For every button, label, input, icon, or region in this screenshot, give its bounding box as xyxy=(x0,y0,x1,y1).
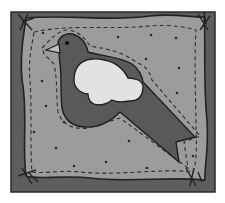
fabric-dot xyxy=(117,36,120,39)
fabric-dot xyxy=(128,140,131,143)
fabric-dot xyxy=(73,165,76,168)
fabric-dot xyxy=(175,37,178,40)
bird-quilt-illustration xyxy=(0,0,225,203)
bird-eye xyxy=(65,41,69,45)
fabric-dot xyxy=(33,131,36,134)
fabric-dot xyxy=(192,155,195,158)
fabric-dot xyxy=(146,167,149,170)
fabric-dot xyxy=(150,34,153,37)
fabric-dot xyxy=(105,161,108,164)
fabric-dot xyxy=(176,92,179,95)
fabric-dot xyxy=(145,58,148,61)
fabric-dot xyxy=(178,67,181,70)
fabric-dot xyxy=(55,147,58,150)
fabric-dot xyxy=(45,105,48,108)
fabric-dot xyxy=(42,32,45,35)
fabric-dot xyxy=(41,80,44,83)
